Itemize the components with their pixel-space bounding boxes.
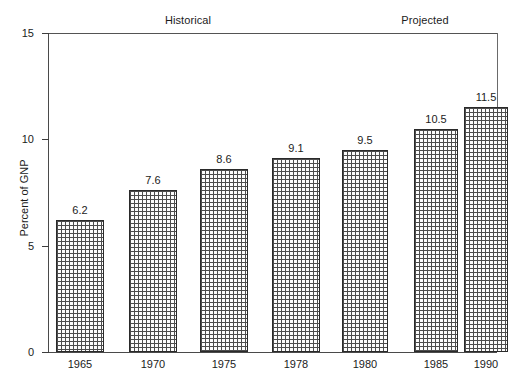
section-label-projected: Projected — [342, 14, 508, 26]
bar-value-label-1970: 7.6 — [129, 174, 177, 186]
y-axis-tick-label-10: 10 — [0, 133, 34, 145]
y-axis-tick-15 — [42, 33, 49, 34]
y-axis-tick-10 — [42, 139, 49, 140]
y-axis-tick-label-0: 0 — [0, 346, 34, 358]
section-label-historical: Historical — [56, 14, 320, 26]
x-axis-label-1975: 1975 — [194, 358, 254, 370]
x-axis-label-1980: 1980 — [336, 358, 394, 370]
bar-value-label-1990: 11.5 — [464, 91, 508, 103]
chart-container: Historical Projected Percent of GNP 1510… — [0, 0, 521, 384]
y-axis-line — [48, 33, 49, 352]
x-axis-label-1978: 1978 — [266, 358, 326, 370]
y-axis-tick-label-5: 5 — [0, 240, 34, 252]
bar-1970 — [129, 190, 177, 352]
bar-value-label-1975: 8.6 — [200, 153, 248, 165]
bar-1980 — [342, 150, 388, 352]
bar-value-label-1980: 9.5 — [342, 134, 388, 146]
x-axis-line — [48, 352, 497, 353]
bar-1985 — [414, 129, 458, 352]
y-axis-tick-0 — [42, 352, 49, 353]
bar-value-label-1985: 10.5 — [414, 113, 458, 125]
bar-1978 — [272, 158, 320, 352]
bar-1965 — [56, 220, 104, 352]
bar-1990 — [464, 107, 508, 352]
x-axis-label-1990: 1990 — [458, 358, 514, 370]
x-axis-label-1985: 1985 — [408, 358, 464, 370]
bar-value-label-1965: 6.2 — [56, 204, 104, 216]
bar-value-label-1978: 9.1 — [272, 142, 320, 154]
plot-frame-top-border — [48, 33, 497, 34]
bar-1975 — [200, 169, 248, 352]
y-axis-tick-label-15: 15 — [0, 27, 34, 39]
x-axis-label-1965: 1965 — [50, 358, 110, 370]
x-axis-label-1970: 1970 — [123, 358, 183, 370]
y-axis-tick-5 — [42, 246, 49, 247]
